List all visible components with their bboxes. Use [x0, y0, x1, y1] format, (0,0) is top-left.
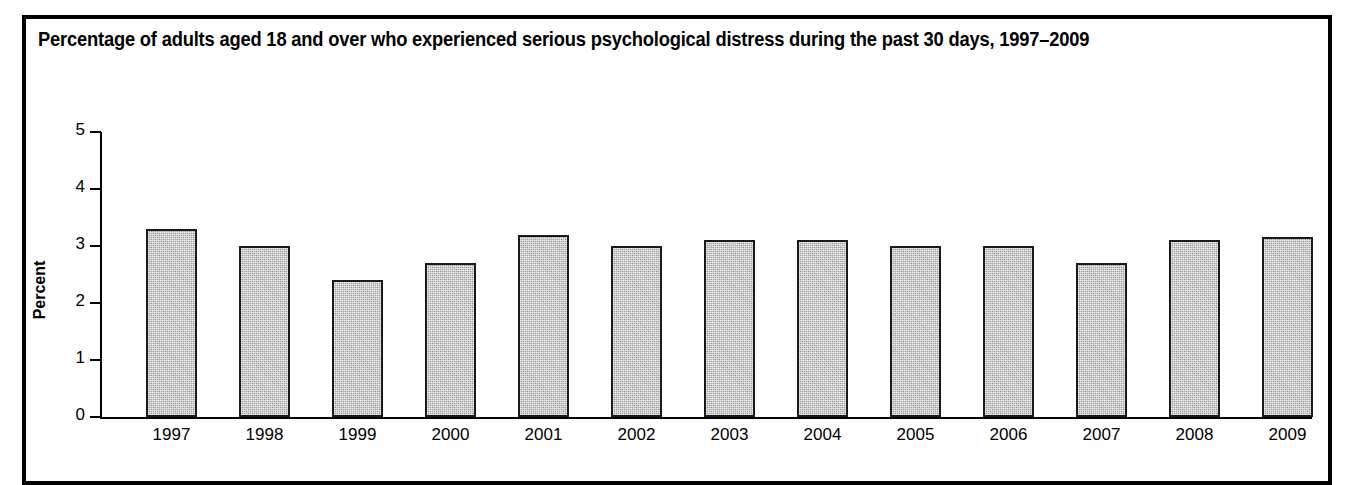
- y-axis-tick-label: 0: [55, 405, 85, 425]
- bar: [1262, 237, 1313, 417]
- x-axis-tick-label: 2001: [497, 425, 591, 445]
- x-axis-tick-label: 2002: [590, 425, 684, 445]
- x-axis-tick-label: 2009: [1241, 425, 1335, 445]
- bar: [704, 240, 755, 417]
- bar: [611, 246, 662, 417]
- x-axis-tick-label: 1999: [311, 425, 405, 445]
- y-axis-tick-label: 1: [55, 348, 85, 368]
- chart-title: Percentage of adults aged 18 and over wh…: [38, 28, 1232, 51]
- y-axis-tick-label: 5: [55, 120, 85, 140]
- x-axis-tick-label: 2006: [962, 425, 1056, 445]
- x-axis-tick-label: 1998: [218, 425, 312, 445]
- bar: [797, 240, 848, 417]
- x-axis-line: [100, 417, 1312, 419]
- y-axis-title-wrapper: Percent: [28, 255, 50, 335]
- bar: [146, 229, 197, 417]
- bar: [1169, 240, 1220, 417]
- x-axis-tick-label: 2004: [776, 425, 870, 445]
- x-axis-tick-label: 2005: [869, 425, 963, 445]
- bar: [983, 246, 1034, 417]
- plot-area: [100, 132, 1310, 417]
- y-axis-tick-label: 2: [55, 291, 85, 311]
- x-axis-tick-label: 2007: [1055, 425, 1149, 445]
- y-axis-title: Percent: [31, 250, 49, 330]
- bar: [1076, 263, 1127, 417]
- bar: [239, 246, 290, 417]
- bar: [518, 235, 569, 417]
- x-axis-tick-label: 2000: [404, 425, 498, 445]
- bar: [890, 246, 941, 417]
- x-axis-tick-label: 1997: [125, 425, 219, 445]
- y-axis-tick-label: 3: [55, 234, 85, 254]
- x-axis-tick-label: 2003: [683, 425, 777, 445]
- bar: [425, 263, 476, 417]
- x-axis-tick-label: 2008: [1148, 425, 1242, 445]
- bar: [332, 280, 383, 417]
- y-axis-tick-label: 4: [55, 177, 85, 197]
